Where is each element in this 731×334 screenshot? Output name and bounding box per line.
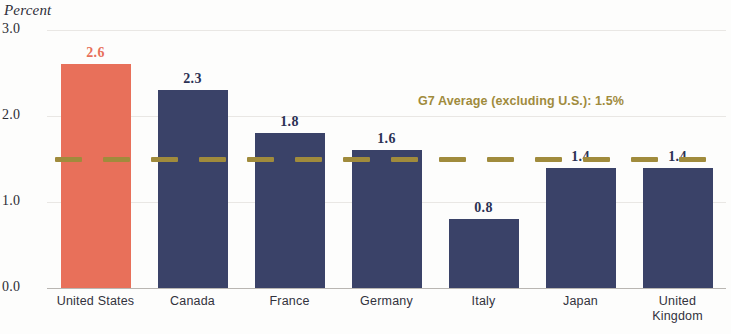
x-axis-label-line: Canada [144,294,241,309]
dash-segment [439,157,466,162]
y-axis-tick: 2.0 [2,107,42,123]
dash-segment [151,157,178,162]
x-axis-label-line: Japan [532,294,629,309]
y-axis-tick: 3.0 [2,21,42,37]
dash-segment [391,157,418,162]
dash-segment [679,157,706,162]
x-axis-category-label: Japan [532,294,629,309]
x-axis-baseline [47,288,726,290]
x-axis-category-label: UnitedKingdom [629,294,726,324]
bar[interactable] [643,168,713,288]
x-axis-category-label: Italy [435,294,532,309]
bar-value-label: 1.6 [332,131,442,147]
bar-value-label: 2.6 [41,45,151,61]
dash-segment [343,157,370,162]
g7-average-annotation-label: G7 Average (excluding U.S.): 1.5% [418,94,624,108]
y-axis-unit-label: Percent [4,2,51,19]
bar[interactable] [546,168,616,288]
average-dashed-line [47,157,726,162]
bar[interactable] [158,90,228,288]
dash-segment [583,157,610,162]
x-axis-label-line: France [241,294,338,309]
x-axis-category-label: Canada [144,294,241,309]
bar-value-label: 2.3 [138,71,248,87]
bar[interactable] [61,64,131,288]
x-axis-label-line: Kingdom [629,309,726,324]
dash-segment [55,157,82,162]
dash-segment [487,157,514,162]
bar-chart: Percent 0.01.02.03.0 2.62.31.81.60.81.41… [0,0,731,334]
x-axis-label-line: Germany [338,294,435,309]
x-axis-label-line: Italy [435,294,532,309]
plot-area: 2.62.31.81.60.81.41.4 [47,30,726,288]
x-axis-label-line: United [629,294,726,309]
x-axis-category-label: Germany [338,294,435,309]
x-axis-label-line: United States [47,294,144,309]
dash-segment [535,157,562,162]
y-axis-tick: 0.0 [2,279,42,295]
y-axis-tick: 1.0 [2,193,42,209]
dash-segment [295,157,322,162]
x-axis-category-labels: United StatesCanadaFranceGermanyItalyJap… [47,294,726,334]
dash-segment [199,157,226,162]
bar[interactable] [352,150,422,288]
bar[interactable] [449,219,519,288]
bar-value-label: 1.8 [235,114,345,130]
dash-segment [247,157,274,162]
bar-value-label: 0.8 [429,200,539,216]
x-axis-category-label: United States [47,294,144,309]
dash-segment [631,157,658,162]
dash-segment [103,157,130,162]
x-axis-category-label: France [241,294,338,309]
